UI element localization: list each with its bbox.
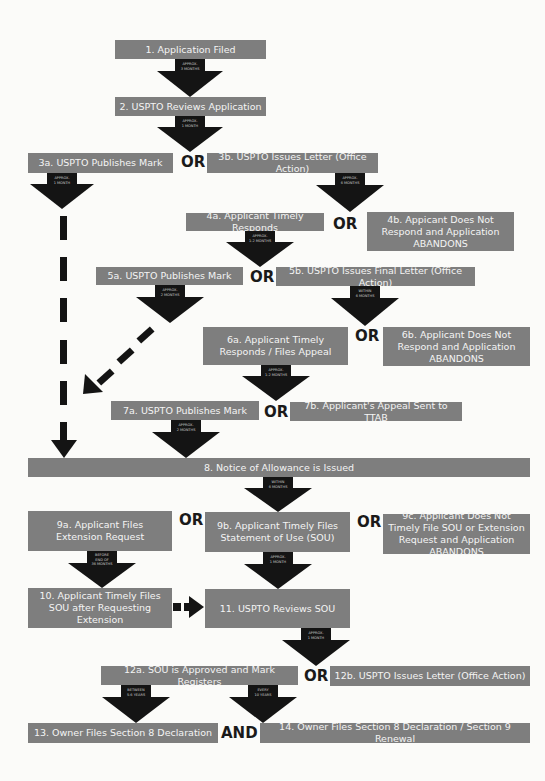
step-2-uspto-reviews-application: 2. USPTO Reviews Application — [115, 97, 266, 116]
arrow-5b-duration-label: WITHIN 6 MONTHS — [331, 289, 399, 298]
arrow-6a-duration-label: APPROX. 1-2 MONTHS — [242, 368, 310, 377]
arrow-9a-duration-label: BEFORE END OF 36 MONTHS — [68, 553, 136, 567]
right-arrowhead-icon — [189, 596, 204, 618]
or-connector-3: OR — [181, 153, 205, 171]
step-4b-applicant-does-not-respond: 4b. Appicant Does Not Respond and Applic… — [367, 212, 514, 251]
step-5b-uspto-issues-final-letter: 5b. USPTO Issues Final Letter (Office Ac… — [276, 267, 475, 286]
arrow-11-duration-label: APPROX. 1 MONTH — [282, 631, 350, 640]
arrow-8-duration-label: WITHIN 6 MONTHS — [244, 480, 312, 489]
step-9a-applicant-files-extension: 9a. Applicant Files Extension Request — [28, 511, 172, 551]
arrow-2-duration-label: APPROX. 1 MONTH — [157, 119, 223, 128]
arrow-5a-duration-label: APPROX. 2 MONTHS — [136, 288, 204, 297]
or-connector-9bc: OR — [357, 513, 381, 531]
down-arrow-8-to-9: WITHIN 6 MONTHS — [244, 477, 312, 512]
or-connector-4: OR — [333, 215, 357, 233]
down-arrow-6a-to-7: APPROX. 1-2 MONTHS — [242, 365, 310, 401]
down-arrow-3b-to-4: APPROX. 6 MONTHS — [316, 173, 384, 212]
diagonal-arrowhead-icon — [83, 370, 107, 394]
step-6b-applicant-does-not-respond: 6b. Applicant Does Not Respond and Appli… — [383, 327, 530, 366]
and-connector-13-14: AND — [221, 724, 258, 742]
down-arrow-9b-to-11: APPROX. 1 MONTH — [244, 552, 312, 589]
step-5a-uspto-publishes-mark: 5a. USPTO Publishes Mark — [96, 267, 243, 285]
down-arrow-12a-to-13: BETWEEN 5-6 YEARS — [102, 685, 170, 723]
down-arrow-1-to-2: APPROX. 3 MONTHS — [157, 59, 223, 97]
or-connector-12: OR — [304, 667, 328, 685]
step-10-sou-after-extension: 10. Applicant Timely Files SOU after Req… — [28, 588, 172, 628]
down-arrow-2-to-3: APPROX. 1 MONTH — [157, 116, 223, 152]
step-14-owner-files-section-8-9-renewal: 14. Owner Files Section 8 Declaration / … — [260, 723, 530, 743]
step-7a-uspto-publishes-mark: 7a. USPTO Publishes Mark — [111, 401, 259, 420]
or-connector-9ab: OR — [179, 511, 203, 529]
step-7b-appeal-sent-to-ttab: 7b. Applicant's Appeal Sent to TTAB — [290, 402, 462, 421]
down-arrow-5b-to-6: WITHIN 6 MONTHS — [331, 286, 399, 326]
step-3b-uspto-issues-letter: 3b. USPTO Issues Letter (Office Action) — [207, 153, 378, 173]
arrow-3b-duration-label: APPROX. 6 MONTHS — [316, 176, 384, 185]
arrow-1-duration-label: APPROX. 3 MONTHS — [157, 62, 223, 71]
step-9b-applicant-files-sou: 9b. Applicant Timely Files Statement of … — [205, 512, 350, 552]
arrow-12a-right-duration-label: EVERY 10 YEARS — [229, 688, 297, 697]
down-arrow-12a-to-14: EVERY 10 YEARS — [229, 685, 297, 723]
down-arrow-5a: APPROX. 2 MONTHS — [136, 285, 204, 323]
step-1-application-filed: 1. Application Filed — [115, 40, 266, 59]
step-6a-applicant-responds-files-appeal: 6a. Applicant Timely Responds / Files Ap… — [203, 327, 348, 365]
down-arrow-11-to-12: APPROX. 1 MONTH — [282, 628, 350, 666]
step-12b-uspto-issues-letter: 12b. USPTO Issues Letter (Office Action) — [330, 666, 530, 686]
arrow-4a-duration-label: APPROX. 1-2 MONTHS — [226, 234, 294, 243]
down-arrow-7a-to-8: APPROX. 2 MONTHS — [152, 420, 220, 458]
or-connector-5: OR — [250, 268, 274, 286]
arrow-3a-duration-label: APPROX. 1 MONTH — [30, 176, 94, 185]
step-8-notice-of-allowance: 8. Notice of Allowance is Issued — [28, 458, 530, 477]
down-arrow-3a: APPROX. 1 MONTH — [30, 173, 94, 209]
step-3a-uspto-publishes-mark: 3a. USPTO Publishes Mark — [28, 153, 173, 173]
step-12a-sou-approved-mark-registers: 12a. SOU is Approved and Mark Registers — [101, 666, 298, 685]
arrow-12a-left-duration-label: BETWEEN 5-6 YEARS — [102, 688, 170, 697]
step-4a-applicant-timely-responds: 4a. Applicant Timely Responds — [186, 213, 324, 231]
arrowhead-down-to-8 — [51, 440, 77, 458]
step-9c-applicant-abandons: 9c. Applicant Does Not Timely File SOU o… — [383, 514, 530, 554]
step-11-uspto-reviews-sou: 11. USPTO Reviews SOU — [205, 589, 350, 628]
arrow-9b-duration-label: APPROX. 1 MONTH — [244, 555, 312, 564]
down-arrow-4a-to-5: APPROX. 1-2 MONTHS — [226, 231, 294, 267]
arrow-7a-duration-label: APPROX. 2 MONTHS — [152, 423, 220, 432]
or-connector-7: OR — [264, 403, 288, 421]
or-connector-6: OR — [355, 327, 379, 345]
down-arrow-9a-to-10: BEFORE END OF 36 MONTHS — [68, 551, 136, 588]
step-13-owner-files-section-8: 13. Owner Files Section 8 Declaration — [28, 723, 218, 743]
